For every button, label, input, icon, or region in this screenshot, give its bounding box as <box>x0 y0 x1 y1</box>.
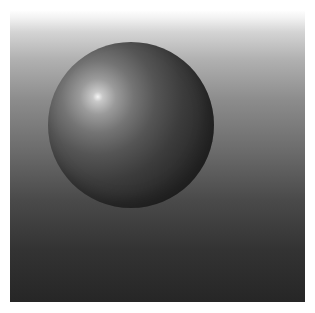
render-canvas <box>10 10 305 302</box>
shaded-sphere <box>48 42 214 208</box>
